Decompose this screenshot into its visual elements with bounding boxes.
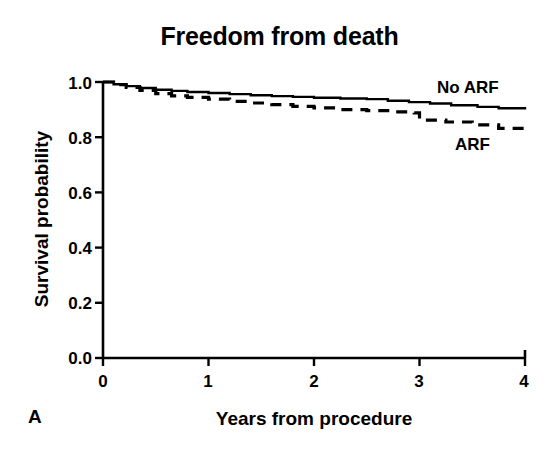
plot-area: [0, 0, 559, 458]
survival-chart-figure: Freedom from death Survival probability …: [0, 0, 559, 458]
axis-lines: [103, 82, 525, 358]
